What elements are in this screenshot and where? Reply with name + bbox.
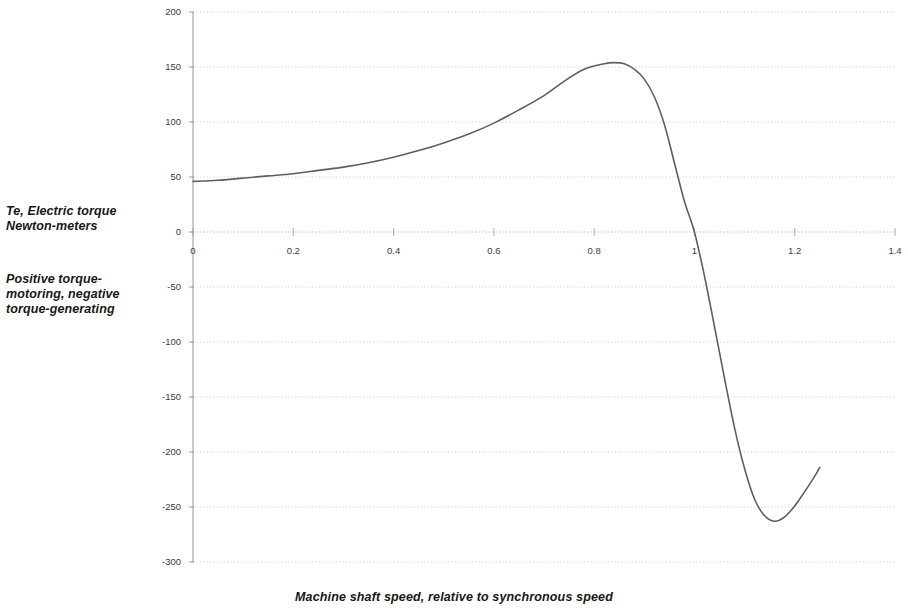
x-tick-label: 0.4 [374,245,414,256]
x-tick-label: 0.2 [273,245,313,256]
chart-canvas [0,0,908,616]
y-tick-label: -150 [145,391,181,402]
y-tick-label: 200 [145,6,181,17]
x-tick-label: 0.6 [474,245,514,256]
y-tick-label: -50 [145,281,181,292]
y-tick-label: 50 [145,171,181,182]
x-tick-label: 1 [674,245,714,256]
gridlines [193,12,895,562]
y-tick-label: -200 [145,446,181,457]
x-tick-label: 0.8 [574,245,614,256]
torque-speed-figure: Te, Electric torque Newton-meters Positi… [0,0,908,616]
y-tick-label: -100 [145,336,181,347]
y-tick-label: -250 [145,501,181,512]
y-tick-label: 150 [145,61,181,72]
data-series [193,63,820,522]
x-tick-label: 1.2 [775,245,815,256]
x-tick-label: 0 [173,245,213,256]
x-tick-label: 1.4 [875,245,908,256]
x-axis-title: Machine shaft speed, relative to synchro… [0,590,908,604]
y-tick-label: -300 [145,556,181,567]
y-tick-label: 100 [145,116,181,127]
plot-area: 200150100500-50-100-150-200-250-30000.20… [0,0,908,616]
torque-speed-curve [193,63,820,522]
y-tick-label: 0 [145,226,181,237]
